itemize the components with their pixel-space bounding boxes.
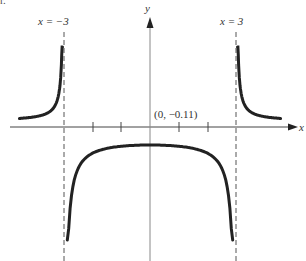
intercept-label: (0, −0.11) — [154, 108, 198, 121]
curve-right-branch — [238, 47, 281, 118]
x-axis-arrow-icon — [288, 124, 298, 131]
y-axis-label: y — [144, 2, 150, 14]
asymptote-right-label: x = 3 — [219, 15, 244, 27]
curve-left-branch — [19, 47, 62, 118]
function-graph: x = −3 x = 3 y x (0, −0.11) — [0, 0, 306, 261]
y-axis-arrow-icon — [147, 17, 154, 28]
x-axis-label: x — [298, 121, 304, 133]
asymptote-left-label: x = −3 — [37, 15, 69, 27]
